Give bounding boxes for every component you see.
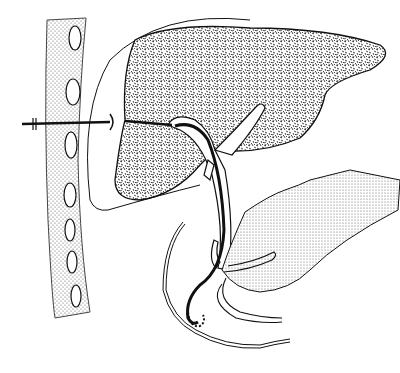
abdominal-wall bbox=[46, 18, 90, 318]
biliary-drainage-illustration bbox=[0, 0, 400, 373]
pancreas bbox=[222, 170, 400, 292]
